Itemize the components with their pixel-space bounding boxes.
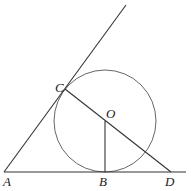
label-o: O <box>106 106 116 121</box>
label-c: C <box>55 80 64 95</box>
diagram-svg: A B C D O <box>0 0 191 191</box>
geometry-diagram: A B C D O <box>0 0 191 191</box>
ray-ac <box>4 5 126 172</box>
label-d: D <box>164 174 175 189</box>
label-b: B <box>99 174 107 189</box>
label-a: A <box>2 174 11 189</box>
